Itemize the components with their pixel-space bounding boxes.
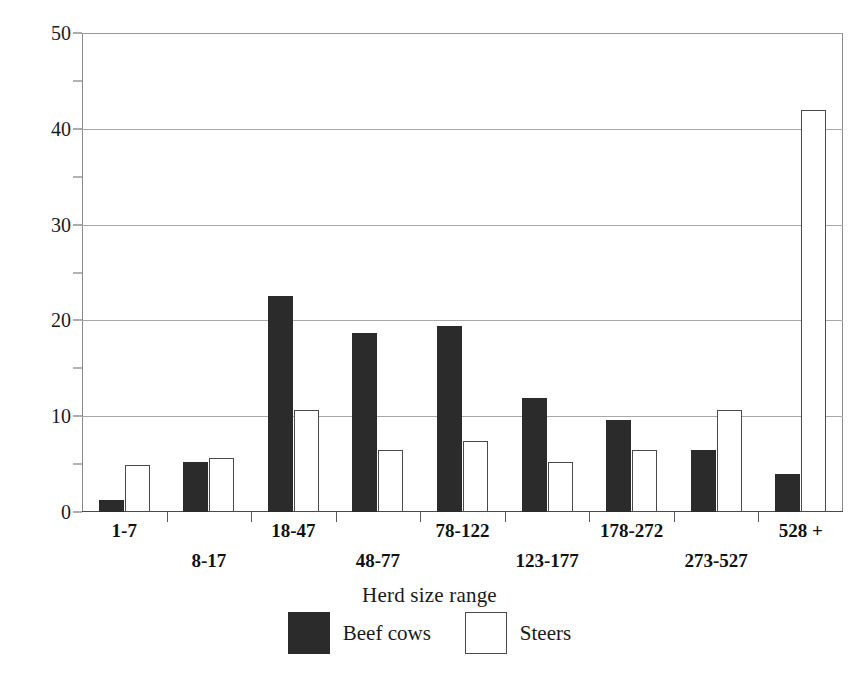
y-tick-major-10 [73, 416, 82, 417]
x-tick-3 [336, 512, 337, 522]
bar-steers-18-47 [294, 410, 319, 512]
bar-steers-1-7 [125, 465, 150, 512]
gridline-50 [82, 33, 843, 34]
legend-label-beef-cows: Beef cows [343, 623, 431, 644]
y-tick-label-10: 10 [51, 406, 71, 426]
gridline-20 [82, 320, 843, 321]
bar-beef-cows-48-77 [352, 333, 377, 512]
x-axis-title: Herd size range [0, 583, 859, 608]
y-tick-label-0: 0 [61, 502, 71, 522]
bar-steers-78-122 [463, 441, 488, 512]
bar-beef-cows-273-527 [691, 450, 716, 512]
x-label-18-47: 18-47 [271, 521, 315, 540]
legend-label-steers: Steers [520, 623, 571, 644]
x-tick-4 [420, 512, 421, 522]
y-tick-label-40: 40 [51, 119, 71, 139]
y-tick-major-20 [73, 320, 82, 321]
y-tick-label-30: 30 [51, 215, 71, 235]
bar-steers-178-272 [632, 450, 657, 512]
x-label-123-177: 123-177 [515, 551, 578, 570]
x-label-178-272: 178-272 [600, 521, 663, 540]
x-tick-5 [505, 512, 506, 522]
x-tick-8 [758, 512, 759, 522]
y-tick-minor-45 [73, 80, 82, 81]
bar-beef-cows-1-7 [99, 500, 124, 512]
y-tick-major-30 [73, 224, 82, 225]
y-tick-major-0 [73, 512, 82, 513]
bar-steers-48-77 [378, 450, 403, 512]
y-axis-line [82, 33, 83, 512]
y-tick-label-50: 50 [51, 23, 71, 43]
x-label-1-7: 1-7 [112, 521, 137, 540]
bar-beef-cows-18-47 [268, 296, 293, 513]
bar-steers-273-527 [717, 410, 742, 512]
legend-entry-beef-cows: Beef cows [288, 612, 431, 654]
gridline-30 [82, 225, 843, 226]
bar-beef-cows-178-272 [606, 420, 631, 512]
x-tick-2 [251, 512, 252, 522]
y-tick-major-40 [73, 128, 82, 129]
x-label-528-+: 528 + [779, 521, 823, 540]
plot-right-border [842, 33, 843, 512]
x-label-8-17: 8-17 [191, 551, 226, 570]
x-label-78-122: 78-122 [436, 521, 490, 540]
bar-steers-8-17 [209, 458, 234, 512]
gridline-40 [82, 129, 843, 130]
bar-beef-cows-78-122 [437, 326, 462, 512]
y-tick-major-50 [73, 33, 82, 34]
legend-swatch-beef-cows [288, 612, 330, 654]
x-tick-7 [674, 512, 675, 522]
y-tick-label-20: 20 [51, 310, 71, 330]
bar-steers-123-177 [548, 462, 573, 512]
bar-steers-528-+ [801, 110, 826, 512]
x-label-273-527: 273-527 [684, 551, 747, 570]
y-tick-minor-15 [73, 368, 82, 369]
y-tick-minor-35 [73, 176, 82, 177]
y-tick-minor-25 [73, 272, 82, 273]
legend-swatch-steers [465, 612, 507, 654]
bar-beef-cows-123-177 [522, 398, 547, 512]
x-label-48-77: 48-77 [356, 551, 400, 570]
legend-entry-steers: Steers [465, 612, 571, 654]
y-tick-minor-5 [73, 464, 82, 465]
bar-beef-cows-8-17 [183, 462, 208, 512]
plot-area: 01020304050 [82, 33, 843, 512]
y-axis-title: Percentage of total in size range [6, 0, 32, 59]
bar-beef-cows-528-+ [775, 474, 800, 512]
chart-page: Percentage of total in size range 010203… [0, 0, 859, 686]
x-tick-6 [589, 512, 590, 522]
chart-legend: Beef cowsSteers [0, 612, 859, 654]
x-tick-1 [167, 512, 168, 522]
